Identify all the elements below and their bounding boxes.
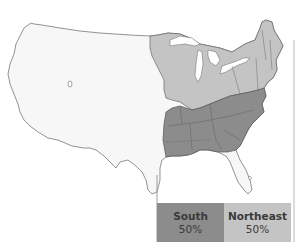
lake-okeechobee	[249, 177, 252, 180]
legend-label: Northeast	[228, 210, 287, 222]
legend-item-south: South 50%	[157, 203, 224, 242]
legend-value: 50%	[179, 223, 202, 235]
legend: South 50% Northeast 50%	[157, 203, 291, 242]
legend-label: South	[173, 210, 208, 222]
great-salt-lake	[68, 81, 72, 87]
legend-value: 50%	[246, 223, 269, 235]
legend-item-northeast: Northeast 50%	[224, 203, 291, 242]
